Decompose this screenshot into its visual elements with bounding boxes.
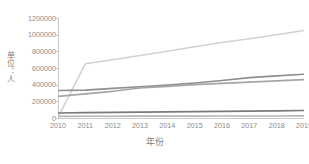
- series-lines: [58, 18, 304, 118]
- y-axis-tick-mark: [55, 118, 58, 119]
- x-axis-tick-labels: 2010201120122013201420152016201720182019: [58, 121, 304, 133]
- x-axis-tick-label: 2015: [180, 121, 210, 131]
- y-axis-tick-label: 1200000: [14, 14, 56, 23]
- plot-area: [58, 18, 304, 118]
- x-axis-tick-label: 2018: [262, 121, 292, 131]
- y-axis-tick-mark: [55, 68, 58, 69]
- y-axis-tick-mark: [55, 18, 58, 19]
- x-axis-tick-label: 2010: [43, 121, 73, 131]
- y-axis-tick-labels: 120000010000008000006000004000002000000: [14, 13, 56, 123]
- x-axis-line: [58, 118, 304, 119]
- y-axis-tick-label: 200000: [14, 97, 56, 106]
- y-axis-tick-mark: [55, 85, 58, 86]
- series-line: [58, 74, 304, 90]
- y-axis-tick-mark: [55, 51, 58, 52]
- y-axis-tick-label: 400000: [14, 80, 56, 89]
- x-axis-tick-label: 2014: [152, 121, 182, 131]
- series-line: [58, 111, 304, 114]
- x-axis-tick-label: 2019: [289, 121, 309, 131]
- x-axis-tick-label: 2013: [125, 121, 155, 131]
- y-axis-tick-mark: [55, 35, 58, 36]
- series-line: [58, 31, 304, 118]
- y-axis-tick-label: 600000: [14, 64, 56, 73]
- x-axis-title: 年份: [0, 136, 309, 148]
- y-axis-tick-label: 800000: [14, 47, 56, 56]
- x-axis-tick-label: 2017: [234, 121, 264, 131]
- x-axis-tick-label: 2012: [98, 121, 128, 131]
- y-axis-tick-mark: [55, 101, 58, 102]
- line-chart: 单位：人 12000001000000800000600000400000200…: [0, 0, 309, 164]
- x-axis-tick-label: 2011: [70, 121, 100, 131]
- x-axis-tick-label: 2016: [207, 121, 237, 131]
- y-axis-tick-label: 1000000: [14, 30, 56, 39]
- series-line: [58, 80, 304, 97]
